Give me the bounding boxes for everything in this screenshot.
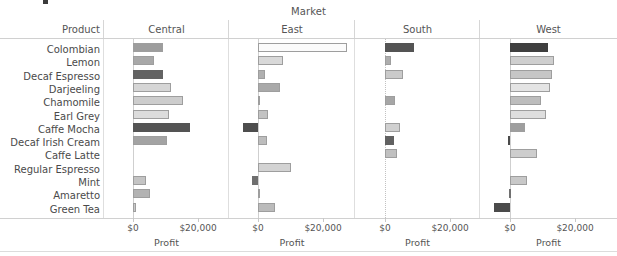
- axis-tick: [133, 218, 134, 222]
- bar[interactable]: [243, 123, 258, 132]
- bar[interactable]: [385, 56, 391, 65]
- axis-title-profit: Profit: [355, 237, 480, 248]
- panel-east: [229, 39, 355, 218]
- bar[interactable]: [510, 176, 527, 185]
- panel-central: [104, 39, 229, 218]
- axis-south: $0$20,000Profit: [355, 218, 480, 251]
- bar[interactable]: [258, 56, 283, 65]
- market-column-header-east: East: [229, 20, 355, 38]
- bar[interactable]: [510, 56, 554, 65]
- axis-tick: [575, 218, 576, 222]
- bar[interactable]: [385, 96, 395, 105]
- axis-tick-label: $20,000: [179, 223, 216, 233]
- axis-tick: [323, 218, 324, 222]
- axis-tick-label: $0: [252, 223, 263, 233]
- bar[interactable]: [133, 110, 169, 119]
- bar[interactable]: [133, 83, 171, 92]
- bar[interactable]: [133, 70, 163, 79]
- bar[interactable]: [385, 149, 397, 158]
- bar[interactable]: [258, 83, 280, 92]
- header-separator: [354, 20, 355, 38]
- product-row-label: Decaf Espresso: [23, 70, 100, 83]
- bar[interactable]: [510, 110, 546, 119]
- axis-tick-label: $0: [379, 223, 390, 233]
- bar[interactable]: [258, 136, 267, 145]
- panel-divider: [479, 39, 480, 218]
- bar[interactable]: [510, 43, 548, 52]
- bar[interactable]: [258, 96, 260, 105]
- axis-tick: [450, 218, 451, 222]
- bar[interactable]: [133, 43, 163, 52]
- axis-central: $0$20,000Profit: [104, 218, 229, 251]
- bar[interactable]: [258, 70, 265, 79]
- bar[interactable]: [258, 203, 275, 212]
- axis-title-profit: Profit: [104, 237, 229, 248]
- bar[interactable]: [133, 189, 150, 198]
- product-row-label: Chamomile: [43, 96, 100, 109]
- axis-tick: [198, 218, 199, 222]
- product-column-header: Product: [0, 20, 104, 38]
- bar[interactable]: [509, 189, 511, 198]
- axis-tick-label: $20,000: [556, 223, 593, 233]
- bar[interactable]: [133, 136, 167, 145]
- bar[interactable]: [258, 110, 268, 119]
- axis-tick: [510, 218, 511, 222]
- bar[interactable]: [510, 149, 537, 158]
- panel-west: [480, 39, 617, 218]
- market-column-header-central: Central: [104, 20, 229, 38]
- bar[interactable]: [258, 163, 291, 172]
- axis-west: $0$20,000Profit: [480, 218, 617, 251]
- axis-tick-label: $0: [504, 223, 515, 233]
- axis-tick-label: $20,000: [304, 223, 341, 233]
- chart-root: Market ProductCentralEastSouthWest Colom…: [0, 0, 617, 256]
- bar[interactable]: [510, 83, 550, 92]
- bar[interactable]: [510, 96, 541, 105]
- product-row-label: Lemon: [66, 56, 100, 69]
- bar[interactable]: [252, 176, 258, 185]
- clipped-header-artifact: [43, 0, 48, 4]
- bar[interactable]: [133, 56, 154, 65]
- bar[interactable]: [510, 70, 552, 79]
- panel-divider: [103, 39, 104, 218]
- bar[interactable]: [508, 136, 510, 145]
- panel-divider: [354, 39, 355, 218]
- column-header-row: ProductCentralEastSouthWest: [0, 20, 617, 38]
- axis-title-profit: Profit: [480, 237, 617, 248]
- market-column-header-south: South: [355, 20, 480, 38]
- bar[interactable]: [133, 176, 146, 185]
- bar[interactable]: [385, 136, 394, 145]
- axis-tick-label: $0: [127, 223, 138, 233]
- bar[interactable]: [385, 43, 414, 52]
- product-row-label: Caffe Mocha: [38, 123, 100, 136]
- product-row-label: Amaretto: [53, 189, 100, 202]
- market-column-header-west: West: [480, 20, 617, 38]
- product-row-label: Mint: [78, 176, 100, 189]
- axis-tick: [258, 218, 259, 222]
- product-row-label: Decaf Irish Cream: [10, 136, 100, 149]
- bar[interactable]: [494, 203, 510, 212]
- bar[interactable]: [510, 123, 525, 132]
- product-row-label: Colombian: [47, 43, 100, 56]
- bar[interactable]: [258, 43, 347, 52]
- product-row-label: Green Tea: [50, 203, 100, 216]
- header-separator: [479, 20, 480, 38]
- axis-east: $0$20,000Profit: [229, 218, 355, 251]
- panel-south: [355, 39, 480, 218]
- bar[interactable]: [133, 203, 136, 212]
- product-row-label: Regular Espresso: [14, 163, 100, 176]
- product-label-column: ColombianLemonDecaf EspressoDarjeelingCh…: [0, 39, 104, 218]
- panel-divider: [228, 39, 229, 218]
- market-header-title: Market: [0, 6, 617, 17]
- bar[interactable]: [133, 96, 183, 105]
- footer-rule: [0, 251, 617, 252]
- bar[interactable]: [258, 189, 260, 198]
- axis-title-profit: Profit: [229, 237, 355, 248]
- bar[interactable]: [385, 70, 403, 79]
- header-separator: [103, 20, 104, 38]
- header-separator: [228, 20, 229, 38]
- axis-tick: [385, 218, 386, 222]
- bar[interactable]: [385, 123, 400, 132]
- bar[interactable]: [133, 123, 190, 132]
- axis-tick-label: $20,000: [431, 223, 468, 233]
- product-row-label: Earl Grey: [54, 110, 100, 123]
